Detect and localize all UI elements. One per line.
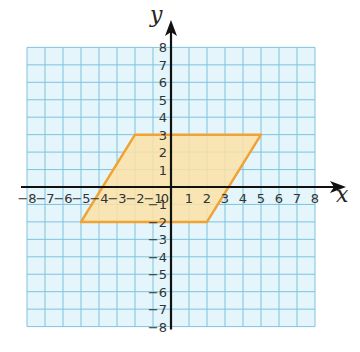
x-tick-label: −5 (71, 191, 90, 206)
y-tick-label: −6 (148, 285, 167, 300)
y-tick-label: 3 (159, 128, 167, 143)
y-axis-label: y (149, 2, 163, 27)
x-tick-label: −8 (17, 191, 36, 206)
x-tick-label: −3 (107, 191, 126, 206)
x-tick-label: 5 (257, 191, 265, 206)
x-tick-label: 6 (275, 191, 283, 206)
coordinate-plane: −8−7−6−5−4−3−2−1012345678 −8−7−6−5−4−3−2… (0, 0, 360, 352)
x-tick-label: −6 (53, 191, 72, 206)
y-tick-label: 5 (159, 93, 167, 108)
y-tick-label: −3 (148, 232, 167, 247)
y-tick-label: −8 (148, 320, 167, 335)
y-tick-label: −7 (148, 302, 167, 317)
x-tick-label: 1 (185, 191, 193, 206)
x-tick-label: −4 (89, 191, 108, 206)
y-tick-label: 1 (159, 163, 167, 178)
x-tick-labels: −8−7−6−5−4−3−2−1012345678 (17, 191, 319, 206)
x-axis-label: x (336, 182, 349, 207)
y-tick-label: 8 (159, 40, 167, 55)
y-tick-label: 6 (159, 75, 167, 90)
y-tick-label: −5 (148, 267, 167, 282)
y-tick-label: −4 (148, 250, 167, 265)
x-tick-label: 4 (239, 191, 247, 206)
x-tick-label: −7 (35, 191, 54, 206)
y-tick-label: 2 (159, 145, 167, 160)
y-tick-label: 4 (159, 110, 167, 125)
x-tick-label: −2 (125, 191, 144, 206)
x-tick-label: 2 (203, 191, 211, 206)
y-tick-label: −1 (148, 197, 167, 212)
y-tick-label: −2 (148, 215, 167, 230)
x-tick-label: 7 (293, 191, 301, 206)
x-tick-label: 8 (311, 191, 319, 206)
y-tick-label: 7 (159, 58, 167, 73)
x-tick-label: 3 (221, 191, 229, 206)
